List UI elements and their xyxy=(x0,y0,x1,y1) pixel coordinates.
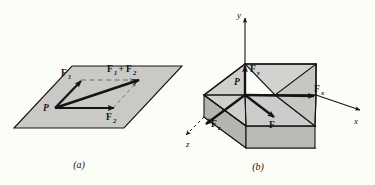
label-vector-fz-letter: F xyxy=(211,119,217,129)
label-vector-fy-subscript: y xyxy=(256,69,260,76)
label-vector-fx-subscript: x xyxy=(320,89,325,96)
label-vector-f1-letter: F xyxy=(61,68,67,78)
caption-panel-a: (a) xyxy=(73,159,85,171)
label-vector-fx-letter: F xyxy=(314,84,320,94)
label-resultant-first-subscript: 1 xyxy=(114,69,117,76)
vector-figure: P F 1 F 2 F 1 + F 2 (a) xyxy=(0,0,375,185)
label-vector-f2-subscript: 2 xyxy=(112,117,117,124)
box-front-right-face xyxy=(246,126,315,148)
panel-b-group: y x z P F y xyxy=(185,10,360,173)
caption-panel-b: (b) xyxy=(252,161,264,173)
vector-fx-arrow xyxy=(245,95,314,96)
label-vector-fx: F x xyxy=(314,84,325,96)
label-point-p-a: P xyxy=(43,103,49,113)
label-vector-f2-letter: F xyxy=(106,112,112,122)
axis-x-line xyxy=(316,95,360,110)
axis-y-label: y xyxy=(236,10,241,20)
label-vector-f-resultant: F xyxy=(269,120,275,130)
figure-canvas: P F 1 F 2 F 1 + F 2 (a) xyxy=(0,0,375,185)
axis-z-label: z xyxy=(185,139,190,149)
axis-z-line xyxy=(186,117,204,135)
label-resultant-plus-sign: + xyxy=(119,64,124,74)
label-resultant-second-letter: F xyxy=(126,64,132,74)
label-vector-f1-subscript: 1 xyxy=(68,73,71,80)
label-vector-fz-subscript: z xyxy=(217,124,221,131)
plane-surface-a xyxy=(14,66,182,128)
axis-x-label: x xyxy=(353,116,358,126)
label-vector-fy-letter: F xyxy=(250,64,256,74)
panel-a-group: P F 1 F 2 F 1 + F 2 (a) xyxy=(14,64,182,171)
label-resultant-second-subscript: 2 xyxy=(132,69,137,76)
label-point-p-b: P xyxy=(234,77,240,87)
label-resultant-first-letter: F xyxy=(107,64,113,74)
